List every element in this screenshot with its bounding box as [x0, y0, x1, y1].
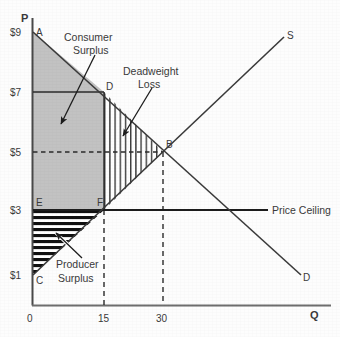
point-label-c: C — [36, 275, 43, 286]
chart-canvas: P Q $9 $7 $5 $3 $1 0 15 30 A B C D E F S… — [0, 0, 340, 337]
x-tick-label-15: 15 — [98, 313, 110, 324]
x-tick-label-0: 0 — [27, 313, 33, 324]
point-label-a: A — [36, 27, 43, 38]
y-tick-label-5: $5 — [10, 147, 22, 158]
point-label-b: B — [166, 139, 173, 150]
y-tick-label-9: $9 — [10, 27, 22, 38]
producer-surplus-label-line2: Surplus — [58, 272, 94, 284]
y-axis-title: P — [21, 12, 28, 24]
point-label-d: D — [106, 81, 113, 92]
consumer-surplus-label-line1: Consumer — [64, 31, 113, 43]
consumer-surplus-label-line2: Surplus — [73, 44, 109, 56]
deadweight-loss-label-line2: Loss — [138, 78, 160, 90]
supply-curve-label: S — [287, 30, 294, 41]
price-ceiling-label: Price Ceiling — [272, 204, 331, 216]
x-axis-title: Q — [310, 309, 319, 321]
point-label-f: F — [97, 197, 103, 208]
y-tick-label-7: $7 — [10, 87, 22, 98]
region-deadweight-loss — [104, 92, 163, 210]
producer-surplus-label-line1: Producer — [56, 258, 99, 270]
point-label-e: E — [36, 197, 43, 208]
supply-demand-price-ceiling-figure: P Q $9 $7 $5 $3 $1 0 15 30 A B C D E F S… — [0, 0, 340, 337]
deadweight-loss-label-line1: Deadweight — [123, 65, 179, 77]
y-tick-label-3: $3 — [10, 205, 22, 216]
y-tick-label-1: $1 — [10, 270, 22, 281]
demand-curve-label: D — [303, 272, 310, 283]
x-tick-label-30: 30 — [156, 313, 168, 324]
